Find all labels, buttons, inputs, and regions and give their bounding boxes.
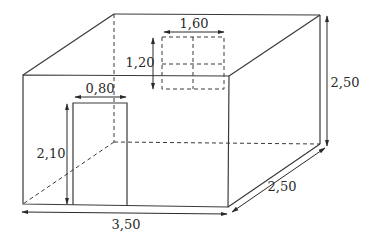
length-label: 3,50 [112, 217, 141, 232]
top-back-edge [114, 14, 320, 15]
door-width-label: 0,80 [86, 81, 115, 96]
top-left-edge [23, 14, 114, 75]
window-width-label: 1,60 [180, 16, 209, 31]
window [162, 37, 224, 89]
door [73, 103, 127, 206]
window-height-label: 1,20 [126, 55, 155, 70]
top-right-edge [229, 15, 320, 76]
dimension-labels: 0,80 2,10 1,60 1,20 3,50 2,50 2,50 [37, 16, 360, 232]
back-bottom-edge [114, 142, 320, 144]
height-label: 2,50 [331, 75, 360, 90]
front-face [23, 75, 229, 207]
room-diagram: 0,80 2,10 1,60 1,20 3,50 2,50 2,50 [0, 0, 373, 245]
door-frame [73, 103, 127, 206]
bottom-right-edge [228, 144, 320, 207]
door-height-label: 2,10 [37, 146, 66, 161]
hidden-edges [23, 14, 320, 204]
length-arrow [22, 212, 227, 214]
depth-label: 2,50 [268, 179, 297, 194]
